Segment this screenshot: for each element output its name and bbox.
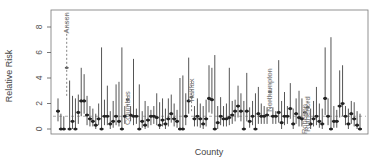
- relative-risk-chart: 02468 AnsonColumbusHalifaxNorthamptonRob…: [0, 0, 377, 167]
- y-tick-label: 4: [34, 75, 44, 80]
- y-axis-title: Relative Risk: [4, 49, 14, 102]
- y-tick-label: 2: [34, 101, 44, 106]
- y-tick-label: 0: [34, 126, 44, 131]
- county-label: Halifax: [187, 78, 196, 101]
- y-tick-label: 8: [34, 24, 44, 29]
- county-label: Rutherford: [303, 96, 312, 131]
- county-label: Anson: [62, 12, 71, 33]
- county-label: Columbus: [123, 91, 132, 125]
- county-label: Northampton: [265, 68, 274, 111]
- y-tick-label: 6: [34, 50, 44, 55]
- y-axis: 02468: [34, 24, 51, 131]
- x-axis-title: County: [195, 147, 224, 157]
